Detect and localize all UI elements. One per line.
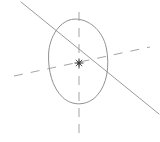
center-point-marker (75, 59, 84, 68)
canvas-background (0, 0, 160, 142)
geometry-diagram (0, 0, 160, 142)
center-dot-icon (77, 61, 80, 64)
diagram-canvas (0, 0, 160, 142)
